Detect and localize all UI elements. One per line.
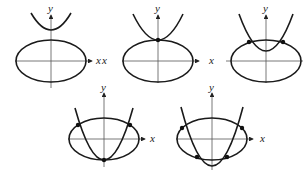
intersection-point — [128, 123, 132, 127]
intersection-point — [195, 155, 199, 159]
panel-5: x y — [176, 81, 265, 170]
intersection-point — [102, 158, 106, 162]
y-axis-label: y — [262, 2, 268, 14]
panel-4: x y — [68, 81, 155, 167]
x-axis-label: x — [95, 54, 101, 66]
x-axis-label: x — [149, 132, 155, 144]
x-axis-label: x — [208, 54, 214, 66]
intersection-point — [76, 123, 80, 127]
y-axis-label: y — [47, 2, 53, 14]
y-axis-label: y — [154, 2, 160, 14]
intersection-point — [281, 40, 285, 44]
panel-3: x y — [208, 2, 303, 83]
x-axis-label: x — [101, 54, 107, 66]
y-axis-label: y — [208, 81, 214, 93]
intersection-point — [247, 40, 251, 44]
intersection-point — [225, 155, 229, 159]
panel-1: x y — [15, 2, 101, 88]
intersection-point — [156, 38, 160, 42]
intersection-point — [240, 126, 244, 130]
x-axis-label: x — [259, 132, 265, 144]
y-axis-label: y — [100, 81, 106, 93]
panel-2: x y — [101, 2, 199, 83]
intersection-point — [180, 126, 184, 130]
intersection-diagram: x y x y x y x y x — [0, 0, 304, 173]
